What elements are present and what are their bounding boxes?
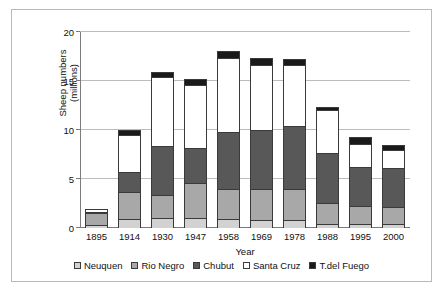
- legend-swatch-icon: [131, 262, 138, 269]
- stacked-bar[interactable]: [316, 107, 339, 228]
- bar-segment[interactable]: [251, 221, 272, 228]
- chart-frame: Sheep numbers (millions) 05101520 189519…: [11, 9, 432, 282]
- bar-segment[interactable]: [119, 193, 140, 220]
- bar-segment[interactable]: [119, 173, 140, 193]
- bar-group: [377, 32, 410, 228]
- bar-segment[interactable]: [185, 184, 206, 219]
- bar-group: [278, 32, 311, 228]
- bar-segment[interactable]: [86, 214, 107, 226]
- bar-segment[interactable]: [317, 154, 338, 204]
- bar-segment[interactable]: [152, 196, 173, 220]
- bar-segment[interactable]: [383, 151, 404, 170]
- bar-segment[interactable]: [383, 169, 404, 208]
- bar-segment[interactable]: [284, 66, 305, 127]
- legend-item[interactable]: Neuquen: [74, 260, 123, 271]
- plot-inner: 05101520: [80, 32, 410, 228]
- x-axis-tick-label: 1947: [179, 231, 212, 242]
- bar-group: [113, 32, 146, 228]
- stacked-bar[interactable]: [283, 59, 306, 228]
- x-axis-title: Year: [80, 246, 410, 257]
- chart-legend: NeuquenRio NegroChubutSanta CruzT.del Fu…: [12, 260, 431, 271]
- bar-segment[interactable]: [185, 219, 206, 228]
- bar-segment[interactable]: [284, 127, 305, 190]
- x-axis-tick-label: 1995: [344, 231, 377, 242]
- legend-item[interactable]: T.del Fuego: [309, 260, 369, 271]
- y-axis-tick-label: 0: [69, 223, 74, 234]
- y-axis-tick-label: 20: [63, 27, 74, 38]
- bar-group: [146, 32, 179, 228]
- legend-swatch-icon: [193, 262, 200, 269]
- x-axis-tick-label: 1978: [278, 231, 311, 242]
- stacked-bar[interactable]: [85, 209, 108, 228]
- bar-segment[interactable]: [383, 225, 404, 228]
- legend-swatch-icon: [243, 262, 250, 269]
- x-axis-tick-label: 2000: [377, 231, 410, 242]
- x-axis-tick-label: 1958: [212, 231, 245, 242]
- stacked-bar[interactable]: [349, 137, 372, 228]
- bar-segment[interactable]: [152, 147, 173, 196]
- bar-segment[interactable]: [251, 66, 272, 131]
- bar-segment[interactable]: [86, 226, 107, 228]
- y-axis-tick-label: 10: [63, 125, 74, 136]
- stacked-bar[interactable]: [382, 145, 405, 228]
- bar-segment[interactable]: [383, 208, 404, 225]
- bar-group: [212, 32, 245, 228]
- bar-segment[interactable]: [350, 225, 371, 228]
- bar-group: [179, 32, 212, 228]
- legend-item[interactable]: Chubut: [193, 260, 234, 271]
- y-axis-tick-label: 15: [63, 76, 74, 87]
- x-axis-tick-label: 1930: [146, 231, 179, 242]
- bar-segment[interactable]: [119, 220, 140, 228]
- stacked-bar[interactable]: [151, 72, 174, 228]
- bar-segment[interactable]: [317, 225, 338, 228]
- legend-label: Neuquen: [84, 260, 123, 271]
- bar-group: [311, 32, 344, 228]
- bar-segment[interactable]: [317, 204, 338, 226]
- plot-area: 05101520: [80, 32, 410, 228]
- legend-swatch-icon: [74, 262, 81, 269]
- bar-group: [80, 32, 113, 228]
- bar-segment[interactable]: [218, 52, 239, 60]
- bar-series-container: [80, 32, 410, 228]
- legend-label: Chubut: [203, 260, 234, 271]
- x-axis-tick-label: 1969: [245, 231, 278, 242]
- bar-segment[interactable]: [119, 136, 140, 173]
- bar-segment[interactable]: [284, 221, 305, 228]
- bar-segment[interactable]: [185, 86, 206, 149]
- legend-item[interactable]: Santa Cruz: [243, 260, 301, 271]
- bar-segment[interactable]: [284, 190, 305, 221]
- bar-segment[interactable]: [218, 190, 239, 220]
- x-axis-tick-label: 1914: [113, 231, 146, 242]
- legend-label: Santa Cruz: [253, 260, 301, 271]
- bar-segment[interactable]: [218, 59, 239, 133]
- bar-segment[interactable]: [218, 220, 239, 228]
- bar-segment[interactable]: [251, 59, 272, 66]
- bar-segment[interactable]: [152, 219, 173, 228]
- bar-segment[interactable]: [317, 111, 338, 153]
- bar-segment[interactable]: [152, 78, 173, 147]
- bar-group: [344, 32, 377, 228]
- legend-label: Rio Negro: [141, 260, 184, 271]
- x-axis-tick-label: 1988: [311, 231, 344, 242]
- bar-segment[interactable]: [185, 149, 206, 184]
- bar-segment[interactable]: [251, 190, 272, 221]
- legend-label: T.del Fuego: [319, 260, 369, 271]
- stacked-bar[interactable]: [217, 51, 240, 228]
- x-axis-tick-label: 1895: [80, 231, 113, 242]
- bar-group: [245, 32, 278, 228]
- stacked-bar[interactable]: [184, 79, 207, 228]
- bar-segment[interactable]: [218, 133, 239, 190]
- bar-segment[interactable]: [350, 207, 371, 225]
- stacked-bar[interactable]: [250, 58, 273, 228]
- x-axis-tick-labels: 1895191419301947195819691978198819952000: [80, 231, 410, 242]
- bar-segment[interactable]: [350, 168, 371, 207]
- bar-segment[interactable]: [251, 131, 272, 190]
- bar-segment[interactable]: [350, 138, 371, 145]
- y-axis-tick-label: 5: [69, 174, 74, 185]
- legend-swatch-icon: [309, 262, 316, 269]
- stacked-bar[interactable]: [118, 130, 141, 228]
- legend-item[interactable]: Rio Negro: [131, 260, 184, 271]
- bar-segment[interactable]: [350, 145, 371, 169]
